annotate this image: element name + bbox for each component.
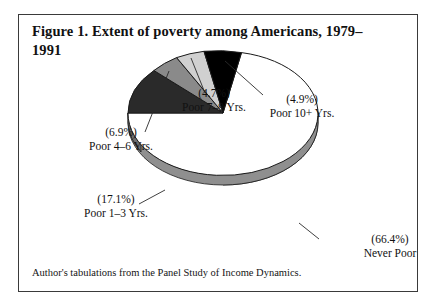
pie-label-never-poor-percent: (66.4%): [336, 233, 444, 247]
pie-label-poor-10-plus-name: Poor 10+ Yrs.: [250, 107, 354, 121]
pie-label-poor-4-6-name: Poor 4–6 Yrs.: [65, 140, 177, 154]
pie-label-poor-1-3-name: Poor 1–3 Yrs.: [55, 207, 177, 221]
leader-line-never-poor: [299, 223, 319, 239]
pie-label-poor-4-6-percent: (6.9%): [65, 126, 177, 140]
figure-root: Figure 1. Extent of poverty among Americ…: [0, 0, 444, 305]
pie-label-poor-1-3: (17.1%) Poor 1–3 Yrs.: [55, 193, 177, 221]
pie-label-poor-10-plus: (4.9%) Poor 10+ Yrs.: [250, 93, 354, 121]
pie-label-poor-4-6: (6.9%) Poor 4–6 Yrs.: [65, 126, 177, 154]
pie-label-never-poor-name: Never Poor: [336, 247, 444, 261]
pie-label-poor-1-3-percent: (17.1%): [55, 193, 177, 207]
pie-label-never-poor: (66.4%) Never Poor: [336, 233, 444, 261]
figure-source-note: Author's tabulations from the Panel Stud…: [32, 266, 392, 279]
pie-label-poor-10-plus-percent: (4.9%): [250, 93, 354, 107]
pie-chart: (4.7%) Poor 7–9 Yrs. (4.9%) Poor 10+ Yrs…: [19, 15, 417, 291]
